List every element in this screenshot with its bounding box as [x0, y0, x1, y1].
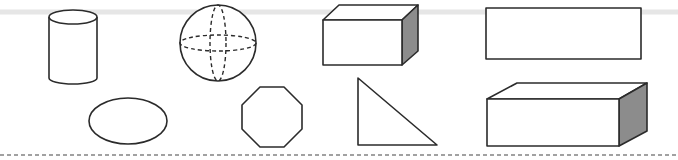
- sphere-shape: [180, 5, 256, 81]
- rectangle-shape: [486, 8, 641, 59]
- shapes-figure: [0, 0, 678, 160]
- right-triangle-shape: [358, 78, 437, 145]
- cylinder-shape: [49, 10, 97, 84]
- ellipse-shape: [89, 98, 167, 144]
- octagon-shape: [242, 87, 302, 147]
- cuboid-long-shape: [487, 83, 647, 146]
- cuboid-small-shape: [323, 5, 418, 65]
